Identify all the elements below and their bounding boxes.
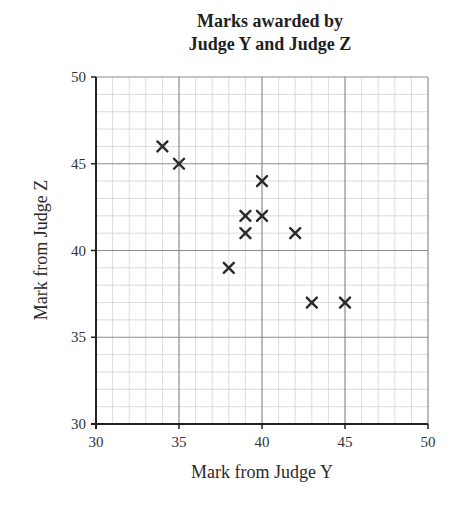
tick-labels: 30354045503035404550 (71, 69, 436, 450)
data-points (157, 141, 350, 307)
y-tick-label: 50 (71, 69, 86, 85)
x-tick-label: 40 (255, 434, 270, 450)
y-tick-label: 30 (71, 416, 86, 432)
y-tick-label: 45 (71, 156, 86, 172)
x-tick-label: 50 (421, 434, 436, 450)
axes (91, 77, 428, 429)
y-tick-label: 40 (71, 243, 86, 259)
y-tick-label: 35 (71, 329, 86, 345)
scatter-plot: 30354045503035404550 (0, 0, 458, 510)
x-tick-label: 45 (338, 434, 353, 450)
x-tick-label: 35 (172, 434, 187, 450)
x-tick-label: 30 (89, 434, 104, 450)
